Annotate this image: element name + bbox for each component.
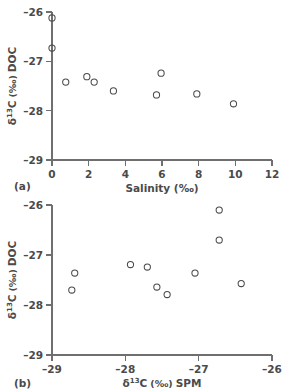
x-tick-label-b-1: –28 [115,363,135,375]
y-axis-title-a-suffix: DOC [6,47,18,73]
panel-label-b: (b) [14,377,31,389]
data-point [127,261,133,267]
y-axis-title-a-units: (‰) [7,75,18,97]
y-tick-label-a-0: –26 [23,6,43,18]
data-point [192,270,198,276]
x-ticks-a [52,160,272,166]
x-tick-label-a-3: 6 [158,168,165,180]
x-axis-title-b-suffix: SPM [176,377,202,389]
x-tick-label-b-2: –27 [189,363,209,375]
data-point [144,264,150,270]
y-tick-label-a-2: –28 [23,105,43,117]
chart-panel-b: –26 –27 –28 –29 –29 –28 –27 –26 δ13C(‰)D… [0,195,290,391]
svg-text:δ13C(‰)DOC: δ13C(‰)DOC [6,47,18,126]
x-tick-label-a-5: 10 [228,168,243,180]
data-point [69,287,75,293]
data-point [72,270,78,276]
x-tick-label-a-6: 12 [265,168,280,180]
data-point [154,284,160,290]
x-axis-title-b-sup: 13 [130,377,140,385]
data-point [158,70,164,76]
panel-label-a: (a) [14,180,31,192]
x-tick-label-a-1: 2 [85,168,92,180]
y-tick-label-a-3: –29 [23,154,43,166]
axis-lines-b [52,205,272,355]
x-tick-label-a-4: 8 [195,168,202,180]
data-point [216,237,222,243]
y-axis-title-a-sup: 13 [6,108,14,118]
data-point [216,207,222,213]
y-axis-title-b: δ13C(‰)DOC [6,241,18,320]
y-axis-title-b-sup: 13 [6,302,14,312]
y-tick-label-b-1: –27 [23,249,43,261]
axis-lines-a [52,12,272,160]
data-point [91,79,97,85]
svg-text:δ13C(‰)SPM: δ13C(‰)SPM [123,377,202,389]
y-axis-title-a-element: C [6,100,18,108]
data-point [63,79,69,85]
y-tick-label-b-2: –28 [23,299,43,311]
y-axis-title-b-delta: δ [6,312,18,319]
data-point [84,74,90,80]
y-ticks-a [46,12,52,160]
data-point [230,101,236,107]
data-points-b [69,207,245,298]
y-axis-title-b-suffix: DOC [6,241,18,267]
y-axis-title-b-element: C [6,294,18,302]
data-points-a [49,15,237,107]
x-axis-title-b: δ13C(‰)SPM [123,377,202,389]
data-point [238,280,244,286]
x-tick-label-a-2: 4 [122,168,129,180]
scatter-plot-a: –26 –27 –28 –29 0 2 4 6 8 10 12 δ13C(‰)D… [0,0,290,196]
x-tick-label-a-0: 0 [48,168,55,180]
data-point [164,291,170,297]
y-axis-title-a-delta: δ [6,118,18,125]
svg-text:δ13C(‰)DOC: δ13C(‰)DOC [6,241,18,320]
x-tick-label-b-0: –29 [42,363,62,375]
x-axis-title-b-element: C [140,377,148,389]
data-point [110,88,116,94]
x-ticks-b [52,355,272,361]
x-axis-title-b-delta: δ [123,377,130,389]
y-tick-label-b-3: –29 [23,349,43,361]
scatter-plot-b: –26 –27 –28 –29 –29 –28 –27 –26 δ13C(‰)D… [0,195,290,391]
data-point [194,91,200,97]
data-point [153,92,159,98]
y-axis-title-a: δ13C(‰)DOC [6,47,18,126]
y-tick-label-a-1: –27 [23,55,43,67]
chart-panel-a: –26 –27 –28 –29 0 2 4 6 8 10 12 δ13C(‰)D… [0,0,290,196]
x-axis-title-a: Salinity (‰) [125,182,198,194]
y-tick-label-b-0: –26 [23,199,43,211]
y-axis-title-b-units: (‰) [7,269,18,291]
x-axis-title-b-units: (‰) [150,378,172,389]
y-ticks-b [46,205,52,355]
x-tick-label-b-3: –26 [262,363,282,375]
